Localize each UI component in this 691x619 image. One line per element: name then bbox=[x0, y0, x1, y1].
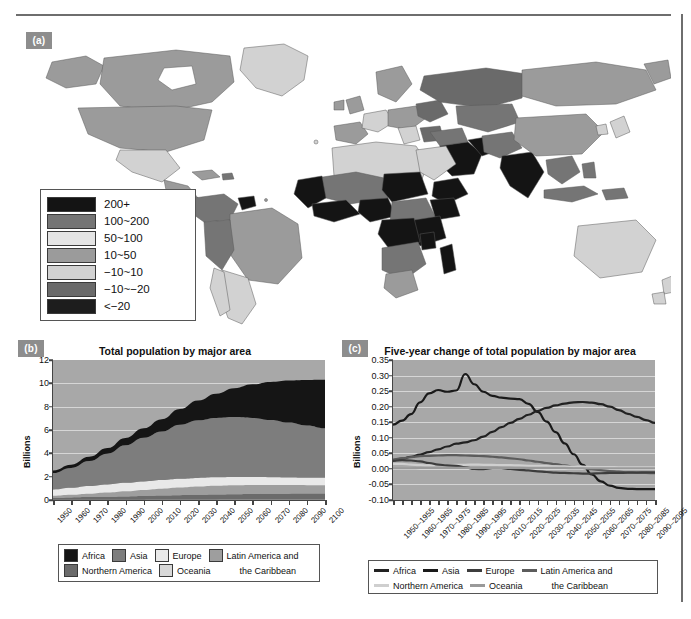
x-tick-label: 1950 bbox=[55, 506, 74, 525]
legend-swatch bbox=[467, 569, 482, 572]
x-tick-label: 2050 bbox=[237, 506, 256, 525]
legend-swatch bbox=[374, 584, 389, 587]
chart-b-legend: AfricaAsiaEuropeLatin America andNorther… bbox=[58, 544, 320, 582]
x-tick-mark bbox=[271, 500, 273, 505]
x-tick-mark bbox=[510, 500, 512, 505]
x-tick-label: 1970 bbox=[91, 506, 110, 525]
legend-swatch-below-minus20 bbox=[47, 299, 96, 314]
legend-label: the Caribbean bbox=[240, 566, 297, 576]
x-tick-mark bbox=[53, 500, 55, 505]
x-tick-mark bbox=[547, 500, 549, 505]
panel-c-five-year-change: (c) Five-year change of total population… bbox=[340, 338, 671, 596]
x-tick-mark bbox=[556, 500, 558, 505]
x-tick-label: 1990 bbox=[128, 506, 147, 525]
chart-b-title: Total population by major area bbox=[30, 345, 320, 357]
legend-swatch bbox=[470, 584, 485, 587]
x-tick-label: 2010 bbox=[164, 506, 183, 525]
y-tick-label: 0.25 bbox=[371, 386, 389, 396]
x-tick-mark bbox=[456, 500, 458, 505]
bottom-caption bbox=[30, 607, 660, 617]
x-tick-mark bbox=[252, 500, 254, 505]
x-tick-mark bbox=[411, 500, 413, 505]
chart-c-lines bbox=[393, 360, 655, 500]
y-tick-label: -0.05 bbox=[368, 479, 389, 489]
legend-label: Africa bbox=[82, 551, 105, 561]
legend-label: Northern America bbox=[82, 566, 152, 576]
y-tick-label: 0.05 bbox=[371, 448, 389, 458]
panel-a-world-map: 200+ 100~200 50~100 10~50 −10~10 −10~−20 bbox=[16, 22, 671, 332]
x-tick-mark bbox=[465, 500, 467, 505]
legend-item: Europe bbox=[155, 549, 202, 562]
legend-item: Northern America bbox=[64, 564, 152, 577]
legend-row: AfricaAsiaEuropeLatin America and bbox=[64, 548, 314, 563]
legend-label: Oceania bbox=[177, 566, 211, 576]
chart-b-y-axis-label: Billions bbox=[22, 435, 32, 468]
legend-label: Europe bbox=[173, 551, 202, 561]
x-tick-label: 2060 bbox=[255, 506, 274, 525]
legend-label: <−20 bbox=[104, 300, 130, 312]
x-tick-mark bbox=[325, 500, 327, 505]
legend-label: 10~50 bbox=[104, 249, 136, 261]
legend-label: 200+ bbox=[104, 198, 130, 210]
x-tick-label: 2090 bbox=[309, 506, 328, 525]
legend-swatch-200-plus bbox=[47, 197, 96, 212]
x-tick-mark bbox=[538, 500, 540, 505]
legend-swatch bbox=[423, 569, 438, 572]
legend-row: 50~100 bbox=[47, 230, 189, 246]
x-tick-mark bbox=[447, 500, 449, 505]
legend-row: −10~−20 bbox=[47, 281, 189, 297]
chart-c-plot-area: -0.10-0.050.000.050.100.150.200.250.300.… bbox=[392, 360, 655, 501]
chart-c-y-axis-label: Billions bbox=[352, 435, 362, 468]
legend-row: Northern AmericaOceaniathe Caribbean bbox=[374, 578, 652, 593]
x-tick-mark bbox=[565, 500, 567, 505]
x-tick-mark bbox=[107, 500, 109, 505]
legend-swatch bbox=[64, 564, 78, 577]
x-tick-label: 1980 bbox=[110, 506, 129, 525]
legend-label: Europe bbox=[486, 566, 515, 576]
panel-b-total-population: (b) Total population by major area Billi… bbox=[16, 338, 336, 596]
x-tick-mark bbox=[402, 500, 404, 505]
y-tick-label: 0.30 bbox=[371, 371, 389, 381]
x-tick-mark bbox=[592, 500, 594, 505]
x-tick-mark bbox=[474, 500, 476, 505]
x-tick-label: 2000 bbox=[146, 506, 165, 525]
legend-swatch bbox=[522, 569, 537, 572]
legend-item: Africa bbox=[374, 566, 416, 576]
x-tick-mark bbox=[234, 500, 236, 505]
legend-swatch-10-50 bbox=[47, 248, 96, 263]
x-tick-mark bbox=[289, 500, 291, 505]
legend-row: 200+ bbox=[47, 196, 189, 212]
y-tick-label: 0.10 bbox=[371, 433, 389, 443]
x-tick-mark bbox=[393, 500, 395, 505]
x-tick-label: 2020 bbox=[182, 506, 201, 525]
legend-item: Asia bbox=[423, 566, 460, 576]
x-tick-mark bbox=[646, 500, 648, 505]
x-tick-mark bbox=[501, 500, 503, 505]
legend-row: Northern AmericaOceaniathe Caribbean bbox=[64, 563, 314, 578]
x-tick-mark bbox=[180, 500, 182, 505]
legend-label: Latin America and bbox=[541, 566, 613, 576]
y-tick-label: 12 bbox=[39, 355, 49, 365]
legend-label: the Caribbean bbox=[552, 581, 609, 591]
legend-row: −10~10 bbox=[47, 264, 189, 280]
legend-item: the Caribbean bbox=[218, 566, 297, 576]
legend-row: AfricaAsiaEuropeLatin America and bbox=[374, 563, 652, 578]
legend-row: 10~50 bbox=[47, 247, 189, 263]
legend-label: −10~10 bbox=[104, 266, 143, 278]
x-tick-label: 2040 bbox=[218, 506, 237, 525]
x-tick-mark bbox=[519, 500, 521, 505]
legend-swatch-100-200 bbox=[47, 214, 96, 229]
panel-label-a: (a) bbox=[26, 32, 52, 49]
legend-label: Africa bbox=[393, 566, 416, 576]
legend-label: Latin America and bbox=[227, 551, 299, 561]
y-tick-label: 0.35 bbox=[371, 355, 389, 365]
x-tick-mark bbox=[89, 500, 91, 505]
x-tick-label: 2030 bbox=[200, 506, 219, 525]
y-tick-label: 0.15 bbox=[371, 417, 389, 427]
x-tick-mark bbox=[601, 500, 603, 505]
legend-item: the Caribbean bbox=[530, 581, 609, 591]
legend-row: 100~200 bbox=[47, 213, 189, 229]
x-tick-mark bbox=[583, 500, 585, 505]
legend-label: Asia bbox=[130, 551, 148, 561]
y-tick-label: -0.10 bbox=[368, 495, 389, 505]
